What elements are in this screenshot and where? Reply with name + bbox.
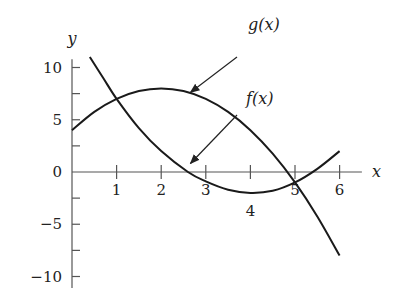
curves xyxy=(72,57,340,256)
f-label-arrow xyxy=(190,115,237,163)
g-label: g(x) xyxy=(248,15,280,34)
annotations: g(x)f(x) xyxy=(190,15,279,163)
y-tick-label: −5 xyxy=(40,215,62,233)
x-tick-label: 1 xyxy=(112,181,122,199)
f-label: f(x) xyxy=(245,89,273,108)
x-tick-label: 4 xyxy=(246,202,256,220)
y-axis-label: y xyxy=(66,29,77,48)
g-label-arrow xyxy=(190,57,237,92)
y-tick-label: −10 xyxy=(30,268,62,286)
x-tick-label: 2 xyxy=(156,181,166,199)
x-axis-label: x xyxy=(372,162,381,181)
axes: 1050−5−10123456yx xyxy=(30,29,381,288)
y-tick-label: 5 xyxy=(52,111,62,129)
y-tick-label: 0 xyxy=(52,163,62,181)
y-tick-label: 10 xyxy=(43,59,62,77)
chart: 1050−5−10123456yx g(x)f(x) xyxy=(0,0,399,308)
x-tick-label: 6 xyxy=(335,181,345,199)
